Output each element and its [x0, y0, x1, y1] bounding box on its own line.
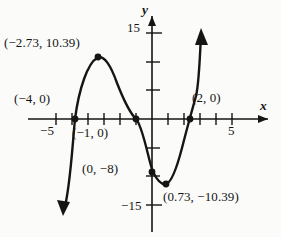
label-root-left: (−4, 0) [14, 92, 50, 105]
point-root-left [72, 116, 79, 123]
x-tick-label-5: 5 [228, 124, 235, 137]
x-axis-label: x [260, 99, 267, 113]
y-tick-label-neg15: −15 [121, 199, 142, 212]
label-local-min: (0.73, −10.39) [163, 190, 239, 203]
y-axis [146, 16, 162, 232]
point-local-min [163, 181, 170, 188]
y-tick-label-15: 15 [127, 21, 140, 34]
y-axis-label: y [142, 3, 148, 17]
label-local-max: (−2.73, 10.39) [4, 36, 80, 49]
label-y-intercept: (0, −8) [82, 162, 118, 175]
graph-figure: (−2.73, 10.39) (−4, 0) (−1, 0) (0, −8) (… [0, 0, 281, 237]
x-tick-label-neg5: −5 [40, 124, 54, 137]
point-root-right [187, 116, 194, 123]
point-root-middle [133, 116, 140, 123]
cubic-curve [57, 28, 208, 216]
label-root-right: (2, 0) [192, 91, 221, 104]
point-local-max [95, 54, 102, 61]
point-y-intercept [149, 169, 156, 176]
label-root-middle: (−1, 0) [72, 126, 108, 139]
